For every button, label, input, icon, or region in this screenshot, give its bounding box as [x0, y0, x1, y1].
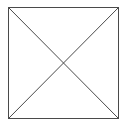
square-with-diagonals-diagram: [0, 0, 127, 127]
